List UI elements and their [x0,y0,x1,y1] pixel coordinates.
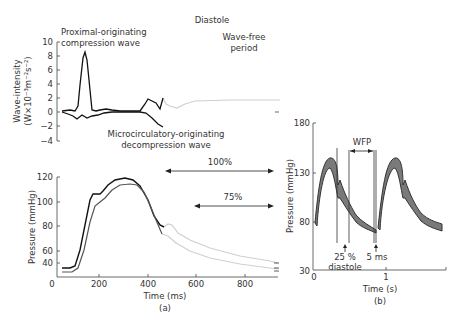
svg-text:75%: 75% [224,192,243,202]
micro-label-2: decompression wave [121,140,211,150]
pressure-band-beat-2 [378,158,442,231]
panel-b-label: (b) [374,296,386,306]
backward-wave-line [62,112,163,127]
svg-text:6: 6 [48,65,53,75]
arrow-100: 100% [165,157,274,174]
svg-text:60: 60 [42,246,53,256]
svg-text:WFP: WFP [353,137,371,147]
micro-label: Microcirculatory-originating [108,129,225,139]
svg-text:80: 80 [42,221,53,231]
svg-text:40: 40 [42,258,53,268]
svg-text:1: 1 [383,272,388,282]
svg-text:30: 30 [299,266,310,276]
svg-text:(W×10⁻³m⁻²s⁻²): (W×10⁻³m⁻²s⁻²) [23,56,33,125]
distal-diastole-line [162,234,278,269]
x-ticks: 0 200 400 600 800 [49,274,253,289]
x-axis-title: Time (s) [362,284,398,294]
svg-text:200: 200 [91,279,107,289]
wave-intensity-chart: 10 8 6 4 2 0 −2 −4 Wave-intensity (W×10⁻… [12,15,280,150]
pct25-marker: 25 % diastole [328,244,362,272]
svg-text:−4: −4 [40,136,53,146]
svg-text:10: 10 [42,37,53,47]
svg-text:400: 400 [140,279,156,289]
svg-text:120: 120 [37,172,53,182]
svg-text:0: 0 [48,107,53,117]
y-axis-title: Pressure (mmHg) [285,159,295,233]
svg-text:180: 180 [294,118,310,128]
svg-text:80: 80 [299,217,310,227]
svg-text:8: 8 [48,51,53,61]
svg-text:600: 600 [188,279,204,289]
svg-text:0: 0 [311,272,316,282]
svg-text:4: 4 [48,79,53,89]
pressure-chart-a: 120 100 80 60 40 0 200 400 600 800 Time … [27,157,279,313]
svg-text:0: 0 [49,279,54,289]
figure: 10 8 6 4 2 0 −2 −4 Wave-intensity (W×10⁻… [0,0,462,324]
svg-text:2: 2 [48,93,53,103]
y-axis-title: Pressure (mmHg) [27,190,37,264]
forward-wave-line [62,52,163,111]
svg-text:diastole: diastole [328,262,362,272]
proximal-label: Proximal-originating [61,27,147,37]
svg-text:130: 130 [294,168,310,178]
diastole-wave-line [163,98,280,108]
svg-text:100%: 100% [208,157,232,167]
aortic-pressure-line [62,178,164,268]
panel-a-label: (a) [159,303,171,313]
arrow-75: 75% [194,192,274,209]
aortic-diastole-line [164,224,278,263]
svg-text:−2: −2 [40,121,53,131]
svg-text:800: 800 [237,279,253,289]
pressure-band-beat-1 [315,158,376,233]
x-axis-title: Time (ms) [143,291,187,301]
proximal-label-2: compression wave [61,38,140,48]
wave-free-label-2: period [230,43,257,53]
wfp-arrow: WFP [350,137,373,153]
y-ticks: 120 100 80 60 40 [37,172,60,268]
wave-free-label: Wave-free [222,32,265,42]
y-axis-title: Wave-intensity (W×10⁻³m⁻²s⁻²) [12,56,33,125]
svg-text:Wave-intensity: Wave-intensity [12,59,22,122]
svg-text:25 %: 25 % [334,252,356,262]
svg-text:5 ms: 5 ms [367,252,388,262]
pressure-chart-b: 180 130 80 30 0 1 Time (s) (b) Pressure … [285,118,446,306]
diastole-label: Diastole [195,15,230,25]
svg-text:100: 100 [37,197,53,207]
ms5-marker: 5 ms [367,244,388,262]
